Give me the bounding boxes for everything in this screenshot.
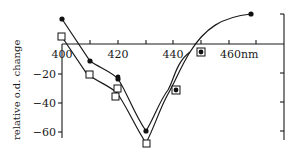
data-point	[143, 128, 148, 133]
x-tick-label: 440	[163, 48, 184, 61]
data-point	[58, 33, 65, 40]
data-point	[87, 58, 92, 63]
x-tick-label: 460nm	[220, 48, 259, 61]
y-axis-title: relative o.d. change	[11, 40, 22, 140]
x-tick-label: 420	[108, 48, 129, 61]
overlap-markers	[116, 50, 204, 93]
x-axis-ticks	[90, 40, 256, 44]
y-tick-label: −20	[33, 68, 56, 81]
y-axis-ticks-left	[58, 74, 62, 132]
x-tick-label: 400	[52, 48, 73, 61]
data-point	[86, 71, 93, 78]
data-point	[143, 140, 150, 147]
y-axis-ticks-right	[280, 14, 284, 131]
data-point	[114, 85, 121, 92]
y-tick-label: −60	[33, 126, 56, 139]
data-point	[248, 11, 253, 16]
data-point	[59, 16, 64, 21]
y-tick-label: −40	[33, 97, 56, 110]
chart: relative o.d. change −20 −40 −60 400 420…	[0, 0, 300, 152]
data-point	[112, 93, 119, 100]
